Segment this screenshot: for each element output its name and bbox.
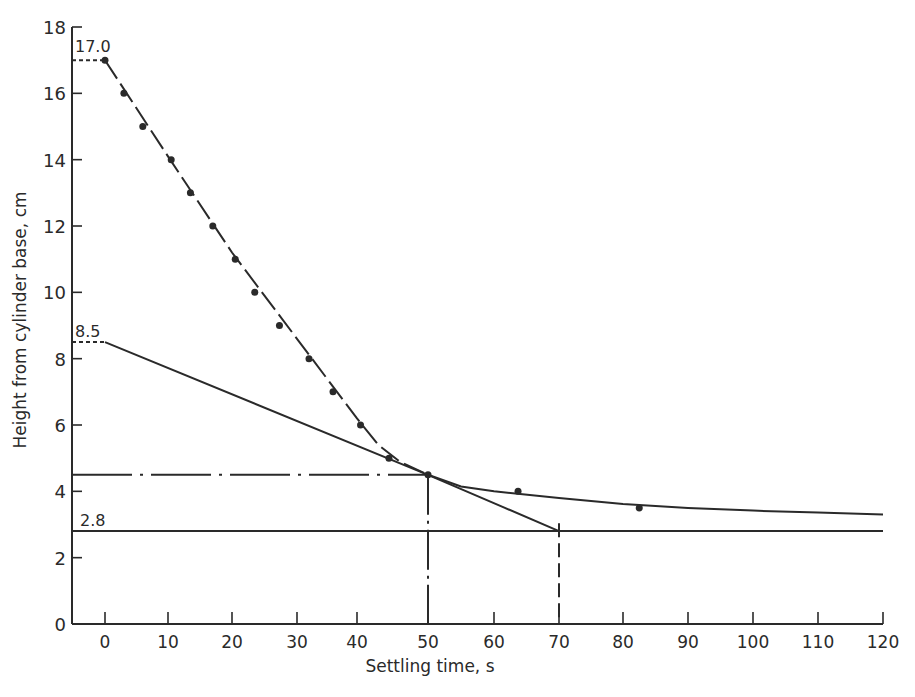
annotations: 17.0 8.5 2.8	[75, 37, 111, 530]
x-tick-label: 30	[286, 632, 308, 652]
x-tick-label: 120	[867, 632, 899, 652]
x-tick-label: 50	[417, 632, 439, 652]
y-tick-label: 14	[43, 150, 66, 171]
y-tick-label: 2	[55, 548, 66, 569]
x-tick-label: 0	[100, 632, 111, 652]
data-point	[636, 504, 643, 511]
data-point	[232, 256, 239, 263]
x-tick-label: 10	[157, 632, 179, 652]
data-point	[306, 355, 313, 362]
series-line	[105, 342, 559, 531]
y-tick-label: 0	[55, 614, 66, 635]
data-point	[276, 322, 283, 329]
series-line	[105, 60, 428, 475]
y-tick-label: 12	[43, 216, 66, 237]
data-point	[187, 189, 194, 196]
data-point	[102, 57, 109, 64]
x-tick-label: 20	[221, 632, 243, 652]
annotation-2-8: 2.8	[80, 511, 105, 530]
series-line	[428, 475, 883, 515]
settling-chart: 0246810121416180102030405060708090100110…	[0, 0, 915, 697]
plot-lines	[72, 60, 883, 624]
x-tick-label: 60	[483, 632, 505, 652]
y-tick-label: 4	[55, 481, 66, 502]
x-tick-label: 90	[677, 632, 699, 652]
annotation-8-5: 8.5	[75, 322, 100, 341]
x-tick-label: 80	[612, 632, 634, 652]
axis-ticks: 0246810121416180102030405060708090100110…	[43, 17, 899, 652]
data-points	[102, 57, 643, 512]
axes	[72, 27, 883, 624]
x-tick-label: 110	[802, 632, 834, 652]
data-point	[330, 388, 337, 395]
x-tick-label: 70	[548, 632, 570, 652]
data-point	[515, 488, 522, 495]
y-tick-label: 10	[43, 282, 66, 303]
x-axis-label: Settling time, s	[365, 656, 494, 676]
y-tick-label: 18	[43, 17, 66, 38]
data-point	[357, 422, 364, 429]
annotation-17: 17.0	[75, 37, 111, 56]
y-tick-label: 8	[55, 349, 66, 370]
data-point	[209, 223, 216, 230]
y-axis-label: Height from cylinder base, cm	[10, 191, 30, 448]
x-tick-label: 40	[346, 632, 368, 652]
data-point	[251, 289, 258, 296]
data-point	[385, 455, 392, 462]
x-tick-label: 100	[737, 632, 769, 652]
y-tick-label: 6	[55, 415, 66, 436]
data-point	[425, 471, 432, 478]
data-point	[120, 90, 127, 97]
data-point	[139, 123, 146, 130]
data-point	[168, 156, 175, 163]
y-tick-label: 16	[43, 83, 66, 104]
